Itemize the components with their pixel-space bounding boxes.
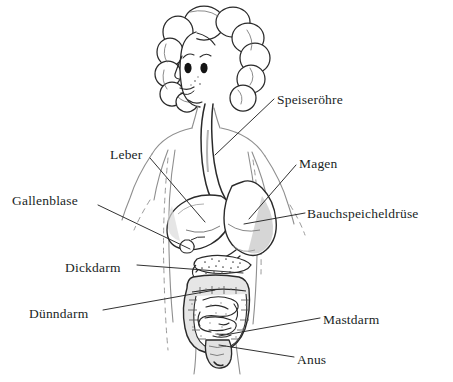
label-mastdarm: Mastdarm — [323, 313, 379, 327]
label-gallenblase: Gallenblase — [12, 194, 78, 208]
label-anus: Anus — [297, 353, 326, 367]
label-dickdarm: Dickdarm — [65, 261, 121, 275]
label-duenndarm: Dünndarm — [29, 307, 88, 321]
anatomy-illustration — [0, 0, 453, 382]
label-leber: Leber — [110, 148, 142, 162]
digestive-system-diagram: Speiseröhre Leber Magen Gallenblase Bauc… — [0, 0, 453, 382]
label-bauchspeicheldruese: Bauchspeicheldrüse — [307, 207, 419, 221]
hair-icon — [155, 6, 270, 112]
rectum-organ — [205, 340, 231, 368]
pancreas-organ — [192, 255, 251, 277]
liver-organ — [167, 195, 232, 250]
label-speiseroehre: Speiseröhre — [277, 93, 343, 107]
label-magen: Magen — [299, 157, 338, 171]
